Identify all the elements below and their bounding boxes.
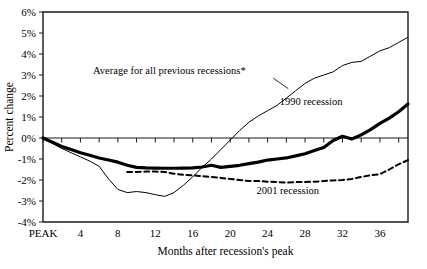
x-axis-tick-label: 36 (374, 227, 386, 239)
series-group (43, 37, 408, 196)
y-axis: 6%5%4%3%2%1%0%-1%-2%-3%-4% (18, 6, 43, 228)
y-axis-tick-label: -2% (18, 174, 36, 186)
x-axis-tick-label: 4 (78, 227, 84, 239)
series-annotation-3: 2001 recession (256, 185, 319, 196)
average-label-leader (273, 78, 288, 89)
x-axis-tick-label: 8 (115, 227, 121, 239)
x-axis-tick-label: 32 (337, 227, 348, 239)
y-axis-tick-label: -4% (18, 216, 36, 228)
x-axis-tick-label: 28 (300, 227, 312, 239)
y-axis-tick-label: 1% (21, 111, 36, 123)
x-axis-title: Months after recession's peak (158, 245, 294, 258)
x-axis-tick-label: 16 (187, 227, 199, 239)
recession-comparison-chart: 6%5%4%3%2%1%0%-1%-2%-3%-4%PEAK4812162024… (0, 0, 427, 269)
series-line-2 (43, 104, 408, 168)
plot-frame (43, 12, 408, 222)
x-axis-tick-label: 24 (262, 227, 274, 239)
chart-canvas: 6%5%4%3%2%1%0%-1%-2%-3%-4%PEAK4812162024… (0, 0, 427, 269)
y-axis-tick-label: 2% (21, 90, 36, 102)
series-annotation-2: 1990 recession (280, 96, 343, 107)
x-axis-tick-label: 20 (225, 227, 237, 239)
x-axis-tick-label: 12 (150, 227, 161, 239)
y-axis-tick-label: 3% (21, 69, 36, 81)
y-axis-tick-label: 6% (21, 6, 36, 18)
y-axis-tick-label: -3% (18, 195, 36, 207)
x-axis-tick-label: PEAK (29, 227, 58, 239)
y-axis-tick-label: 4% (21, 48, 36, 60)
series-annotation-1: Average for all previous recessions* (93, 65, 246, 76)
y-axis-tick-label: -1% (18, 153, 36, 165)
annotations: Average for all previous recessions*1990… (93, 65, 343, 196)
series-line-3 (127, 160, 408, 182)
series-line-1 (43, 37, 408, 196)
y-axis-title: Percent change (3, 82, 16, 152)
y-axis-tick-label: 5% (21, 27, 36, 39)
y-axis-tick-label: 0% (21, 132, 36, 144)
